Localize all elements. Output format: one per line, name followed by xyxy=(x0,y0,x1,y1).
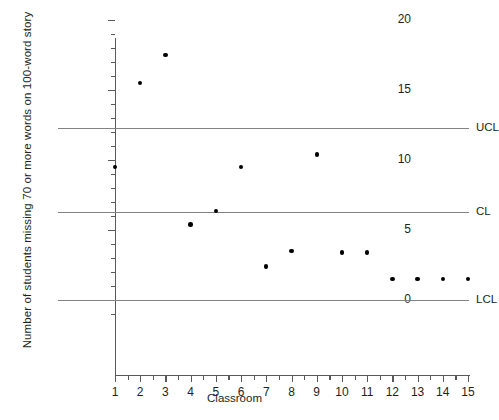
x-tick-major xyxy=(367,376,368,382)
control-label-cl: CL xyxy=(476,205,491,217)
y-tick-minor xyxy=(111,258,115,259)
y-tick-minor xyxy=(111,146,115,147)
data-point xyxy=(365,250,369,254)
y-tick-minor xyxy=(111,202,115,203)
control-line-lcl xyxy=(58,300,469,301)
y-axis-line xyxy=(115,38,116,375)
data-point xyxy=(239,165,243,169)
y-tick-label: 10 xyxy=(367,152,411,166)
data-point xyxy=(163,53,167,57)
x-tick-minor xyxy=(203,376,204,380)
data-point xyxy=(340,250,344,254)
data-point xyxy=(138,81,142,85)
y-tick-minor xyxy=(111,76,115,77)
x-tick-minor xyxy=(304,376,305,380)
data-point xyxy=(390,277,394,281)
y-tick-major xyxy=(108,20,115,21)
x-tick-minor xyxy=(380,376,381,380)
x-tick-major xyxy=(392,376,393,382)
y-tick-minor xyxy=(111,244,115,245)
y-tick-minor xyxy=(111,272,115,273)
x-tick-minor xyxy=(355,376,356,380)
x-tick-minor xyxy=(128,376,129,380)
y-tick-minor xyxy=(111,118,115,119)
x-tick-label: 15 xyxy=(453,385,483,399)
y-tick-major xyxy=(108,230,115,231)
y-axis-title: Number of students missing 70 or more wo… xyxy=(18,10,36,350)
data-point xyxy=(289,249,293,253)
x-tick-major xyxy=(140,376,141,382)
y-tick-minor xyxy=(111,216,115,217)
x-tick-major xyxy=(342,376,343,382)
data-point xyxy=(188,222,192,226)
y-tick-minor xyxy=(111,132,115,133)
x-axis-title: Classroom xyxy=(58,392,411,404)
x-tick-minor xyxy=(153,376,154,380)
y-tick-minor xyxy=(111,174,115,175)
data-point xyxy=(466,277,470,281)
y-tick-label: 5 xyxy=(367,222,411,236)
control-label-lcl: LCL xyxy=(476,293,497,305)
x-tick-major xyxy=(468,376,469,382)
data-point xyxy=(415,277,419,281)
x-tick-minor xyxy=(279,376,280,380)
x-tick-major xyxy=(266,376,267,382)
x-tick-minor xyxy=(178,376,179,380)
y-tick-major xyxy=(108,90,115,91)
data-point xyxy=(264,264,268,268)
y-tick-minor xyxy=(111,188,115,189)
y-tick-major xyxy=(108,160,115,161)
y-tick-label: 15 xyxy=(367,82,411,96)
y-tick-minor xyxy=(111,62,115,63)
x-tick-major xyxy=(317,376,318,382)
x-tick-major xyxy=(115,376,116,382)
x-tick-major xyxy=(292,376,293,382)
x-tick-minor xyxy=(405,376,406,380)
data-point xyxy=(441,277,445,281)
y-tick-minor xyxy=(111,104,115,105)
x-tick-minor xyxy=(254,376,255,380)
y-tick-label: 0 xyxy=(367,292,411,306)
x-tick-major xyxy=(191,376,192,382)
plot-area: 05101520 123456789101112131415 UCLCLLCL xyxy=(58,20,411,350)
data-point xyxy=(113,165,117,169)
control-line-ucl xyxy=(58,128,469,129)
x-tick-minor xyxy=(329,376,330,380)
control-label-ucl: UCL xyxy=(476,121,499,133)
y-tick-minor xyxy=(111,314,115,315)
x-tick-major xyxy=(216,376,217,382)
x-tick-major xyxy=(443,376,444,382)
x-tick-major xyxy=(241,376,242,382)
x-tick-minor xyxy=(455,376,456,380)
x-tick-minor xyxy=(430,376,431,380)
y-tick-minor xyxy=(111,48,115,49)
x-tick-minor xyxy=(228,376,229,380)
y-tick-minor xyxy=(111,34,115,35)
x-tick-major xyxy=(418,376,419,382)
control-line-cl xyxy=(58,212,469,213)
y-tick-label: 20 xyxy=(367,12,411,26)
data-point xyxy=(315,152,319,156)
x-tick-major xyxy=(165,376,166,382)
y-tick-minor xyxy=(111,286,115,287)
